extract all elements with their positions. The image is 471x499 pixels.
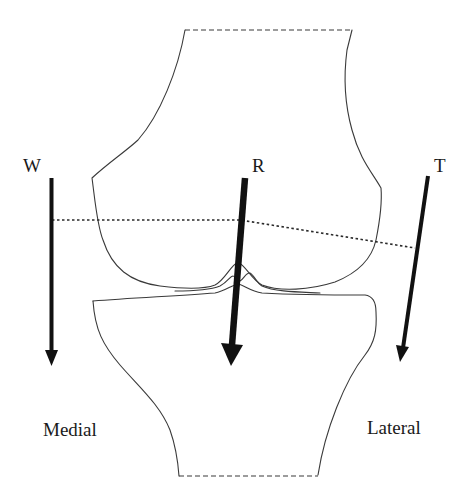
- arrow-head-icon: [45, 350, 58, 366]
- tibia-medial-outline: [93, 301, 179, 476]
- arrow-head-icon: [221, 343, 243, 366]
- label-r: R: [252, 155, 265, 176]
- moment-arm-line: [52, 220, 415, 248]
- force-r-arrow: [221, 178, 245, 366]
- label-lateral: Lateral: [367, 417, 421, 438]
- cartilage-line: [175, 273, 320, 293]
- label-medial: Medial: [43, 419, 97, 440]
- label-t: T: [434, 155, 446, 176]
- knee-force-diagram: W R T Medial Lateral: [0, 0, 471, 499]
- label-w: W: [23, 155, 41, 176]
- force-t-arrow: [396, 176, 428, 362]
- arrow-head-icon: [396, 345, 409, 362]
- force-w-arrow: [45, 178, 58, 366]
